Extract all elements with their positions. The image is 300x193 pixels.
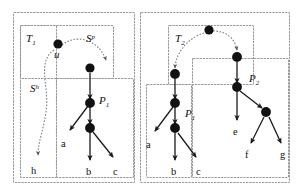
node-p1-root-right — [170, 98, 180, 108]
b-label-right: b — [171, 166, 176, 177]
t1-label-sub: 1 — [32, 39, 36, 47]
t1-box — [21, 26, 114, 79]
node-t2-right-child — [232, 52, 242, 62]
a-label-left: a — [61, 138, 66, 149]
h-box — [21, 26, 57, 178]
c-label-left: c — [113, 166, 118, 177]
g-label: g — [280, 149, 286, 160]
u-label: u — [54, 48, 60, 60]
figure-canvas: T1 Sp Sh u P1 h a b c — [0, 0, 300, 193]
b-label-left: b — [86, 166, 91, 177]
edge-r-m2-m3 — [240, 91, 262, 108]
node-t2-root — [204, 25, 213, 34]
node-p1-root-left — [85, 98, 95, 108]
e-label: e — [233, 126, 238, 137]
sh-label: Sh — [30, 82, 40, 94]
node-p1-mid-right — [170, 123, 180, 133]
c-label-right: c — [196, 166, 201, 177]
sp-label-sup: p — [91, 33, 96, 41]
p1-box-right — [147, 85, 192, 178]
edge-r-n3-c — [178, 133, 196, 157]
t2-label: T2 — [175, 32, 185, 47]
p1-box-left — [57, 79, 134, 178]
edge-n2-a — [70, 106, 88, 130]
t1-label: T1 — [26, 32, 36, 47]
t2-label-sub: 2 — [181, 39, 185, 47]
node-p2-mid — [261, 107, 271, 117]
right-panel: T2 P1 P2 a b c e f g — [141, 13, 290, 183]
edge-n3-c — [93, 132, 113, 157]
sp-label: Sp — [86, 32, 96, 44]
node-p1-mid-left — [85, 123, 95, 133]
p1-label-left-sub: 1 — [106, 101, 110, 109]
node-t2-left-child — [170, 69, 180, 79]
edge-r-m3-f — [251, 117, 264, 143]
sh-curve — [38, 50, 54, 155]
p1-label-left: P1 — [98, 94, 109, 109]
node-sp-target — [85, 63, 94, 72]
sh-label-sup: h — [36, 83, 40, 91]
node-p2-root — [232, 82, 242, 92]
sp-curve — [62, 39, 106, 60]
h-label: h — [31, 165, 37, 176]
t2-curve-right — [213, 31, 237, 50]
left-panel: T1 Sp Sh u P1 h a b c — [14, 13, 135, 183]
p1-label-right-sub: 1 — [192, 114, 196, 122]
outer-box-right — [141, 13, 290, 183]
f-label: f — [245, 149, 249, 160]
p2-label-sub: 2 — [256, 79, 260, 87]
p1-label-right: P1 — [184, 107, 195, 122]
edge-r-m3-g — [269, 117, 281, 143]
p2-box — [193, 59, 289, 178]
a-label-right: a — [146, 139, 151, 150]
